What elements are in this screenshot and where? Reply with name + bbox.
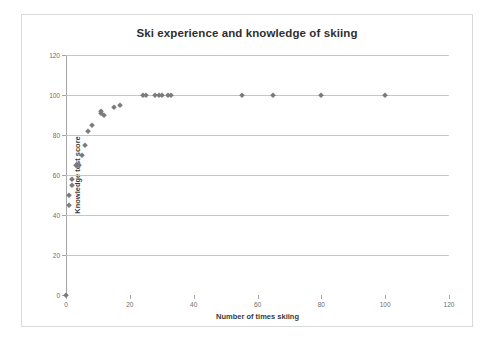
data-point: [319, 92, 324, 97]
gridline: [66, 255, 449, 256]
data-point: [79, 152, 84, 157]
gridline: [66, 215, 449, 216]
data-point: [63, 292, 68, 297]
x-axis-tick-label: 100: [380, 301, 391, 308]
data-point: [143, 92, 148, 97]
y-axis-tick-label: 120: [49, 52, 60, 59]
y-axis-tick-label: 0: [56, 292, 60, 299]
y-axis-tick: [62, 175, 66, 176]
x-axis-tick: [130, 295, 131, 299]
data-point: [67, 202, 72, 207]
gridline: [66, 55, 449, 56]
gridline: [66, 175, 449, 176]
data-point: [89, 122, 94, 127]
data-point: [159, 92, 164, 97]
plot-area: 020406080100120 020406080100120: [66, 55, 449, 295]
y-axis-tick-label: 80: [53, 131, 60, 138]
chart-frame: Ski experience and knowledge of skiing K…: [21, 14, 473, 327]
y-axis-tick: [62, 55, 66, 56]
x-axis-tick: [321, 295, 322, 299]
x-axis-tick-label: 0: [64, 301, 68, 308]
x-axis-title: Number of times skiing: [66, 312, 449, 321]
x-axis-tick-label: 20: [126, 301, 133, 308]
x-axis-tick-label: 40: [190, 301, 197, 308]
x-axis-tick-label: 60: [254, 301, 261, 308]
data-point: [83, 142, 88, 147]
y-axis-tick: [62, 215, 66, 216]
x-axis-tick: [449, 295, 450, 299]
y-axis-tick-label: 60: [53, 172, 60, 179]
data-point: [111, 104, 116, 109]
y-axis-tick-label: 100: [49, 91, 60, 98]
x-axis-tick-label: 80: [318, 301, 325, 308]
y-axis-tick-label: 20: [53, 252, 60, 259]
x-axis-tick: [385, 295, 386, 299]
gridline: [66, 135, 449, 136]
data-point: [102, 112, 107, 117]
x-axis-tick: [194, 295, 195, 299]
chart-title: Ski experience and knowledge of skiing: [22, 27, 472, 39]
data-point: [70, 182, 75, 187]
gridline: [66, 95, 449, 96]
x-axis-tick: [258, 295, 259, 299]
y-axis-tick: [62, 255, 66, 256]
data-point: [86, 128, 91, 133]
data-point: [118, 102, 123, 107]
y-axis-tick-label: 40: [53, 211, 60, 218]
data-point: [383, 92, 388, 97]
data-point: [239, 92, 244, 97]
data-point: [70, 176, 75, 181]
y-axis-tick: [62, 95, 66, 96]
data-point: [67, 192, 72, 197]
data-point: [169, 92, 174, 97]
x-axis-tick-label: 120: [444, 301, 455, 308]
data-point: [76, 162, 81, 167]
data-point: [271, 92, 276, 97]
y-axis-tick: [62, 135, 66, 136]
